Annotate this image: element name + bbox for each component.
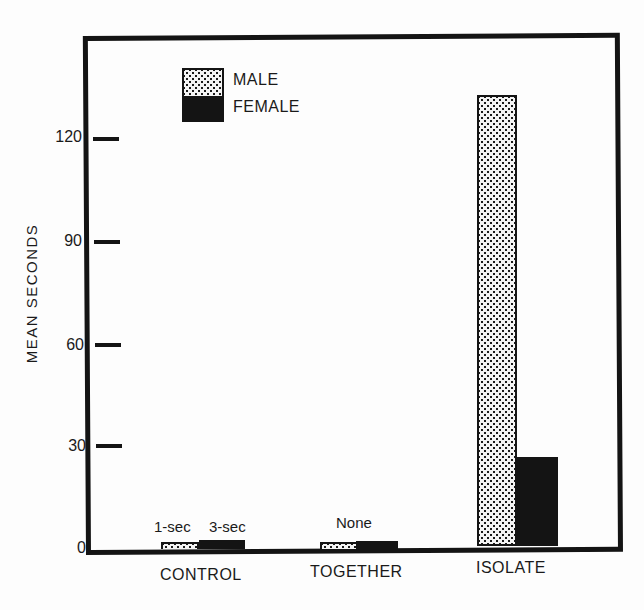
- y-tick-90: [94, 240, 120, 244]
- y-axis-label: MEAN SECONDS: [23, 224, 40, 364]
- bar-isolate-male: [477, 95, 517, 546]
- y-tick-30: [96, 444, 122, 448]
- y-tick-label-60: 60: [44, 336, 84, 354]
- legend-label-male: MALE: [233, 71, 279, 89]
- annotation-3-sec: 3-sec: [209, 518, 246, 535]
- bar-control-male: [161, 542, 199, 549]
- bar-together-male: [320, 542, 358, 549]
- y-tick-label-0: 0: [46, 539, 86, 557]
- bar-control-female: [199, 540, 245, 549]
- category-label-control: CONTROL: [160, 566, 242, 584]
- legend-female-swatch: [184, 96, 222, 120]
- legend-label-female: FEMALE: [233, 98, 300, 116]
- y-tick-label-30: 30: [46, 437, 86, 455]
- y-tick-label-120: 120: [42, 128, 82, 146]
- legend-swatch: [182, 68, 224, 122]
- bar-together-female: [356, 541, 398, 549]
- annotation-1-sec: 1-sec: [154, 518, 191, 535]
- legend-male-swatch: [184, 70, 222, 96]
- category-label-together: TOGETHER: [310, 563, 403, 581]
- category-label-isolate: ISOLATE: [476, 559, 546, 577]
- bar-isolate-female: [515, 457, 558, 546]
- y-tick-120: [93, 137, 119, 141]
- annotation-none: None: [336, 514, 372, 531]
- y-tick-label-90: 90: [42, 232, 82, 250]
- y-tick-60: [95, 343, 121, 347]
